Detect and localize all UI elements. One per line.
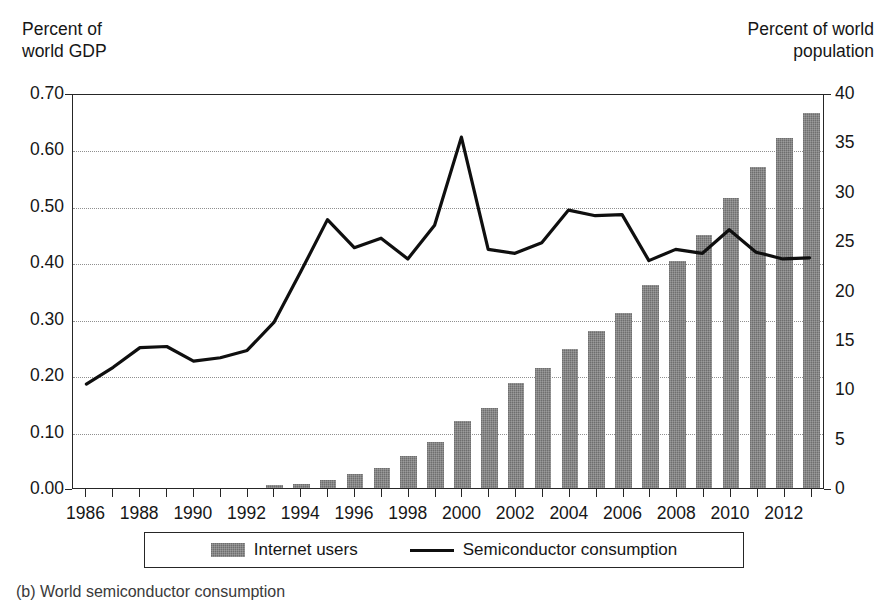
y-axis-left-tick-mark: [65, 489, 72, 490]
x-axis-tick-mark: [408, 489, 409, 497]
x-axis-tick-mark: [542, 489, 543, 497]
legend-entry-semiconductor-consumption[interactable]: Semiconductor consumption: [410, 540, 678, 560]
x-axis-tick-mark: [139, 489, 140, 497]
y-axis-right-tick-label: 10: [835, 379, 887, 400]
x-axis-tick-label: 1998: [378, 503, 438, 524]
y-axis-left-tick-label: 0.40: [0, 252, 64, 273]
y-axis-right-tick-label: 15: [835, 330, 887, 351]
y-axis-left-tick-label: 0.20: [0, 365, 64, 386]
line-svg: [73, 95, 823, 488]
x-axis-tick-label: 1986: [55, 503, 115, 524]
x-axis-tick-label: 2004: [539, 503, 599, 524]
y-axis-right-tick-label: 40: [835, 83, 887, 104]
x-axis-tick-label: 2002: [485, 503, 545, 524]
y-axis-left-tick-label: 0.70: [0, 83, 64, 104]
x-axis-tick-mark: [730, 489, 731, 497]
x-axis-tick-mark: [354, 489, 355, 497]
x-axis-tick-mark: [676, 489, 677, 497]
y-axis-left-tick-label: 0.00: [0, 478, 64, 499]
y-axis-left-tick-mark: [65, 94, 72, 95]
y-axis-left-title: Percent of world GDP: [22, 18, 107, 62]
x-axis-tick-mark: [273, 489, 274, 497]
x-axis-tick-label: 2000: [431, 503, 491, 524]
x-axis-tick-mark: [300, 489, 301, 497]
y-axis-left-tick-label: 0.50: [0, 196, 64, 217]
x-axis-tick-label: 2008: [646, 503, 706, 524]
y-axis-left-tick-label: 0.10: [0, 422, 64, 443]
line-series-semiconductor-consumption: [73, 95, 823, 488]
y-axis-right-tick-label: 20: [835, 281, 887, 302]
y-axis-right-tick-label: 25: [835, 231, 887, 252]
x-axis-tick-mark: [649, 489, 650, 497]
legend-entry-internet-users[interactable]: Internet users: [211, 540, 358, 560]
x-axis-tick-mark: [623, 489, 624, 497]
x-axis-tick-mark: [569, 489, 570, 497]
x-axis-tick-label: 2010: [700, 503, 760, 524]
x-axis-tick-mark: [488, 489, 489, 497]
x-axis-tick-mark: [166, 489, 167, 497]
x-axis-tick-mark: [247, 489, 248, 497]
bar-swatch-icon: [211, 543, 245, 557]
y-axis-right-tick-label: 35: [835, 132, 887, 153]
x-axis-tick-mark: [811, 489, 812, 497]
x-axis-tick-mark: [85, 489, 86, 497]
y-axis-right-tick-label: 0: [835, 478, 887, 499]
figure-caption: (b) World semiconductor consumption: [16, 583, 285, 601]
x-axis-tick-mark: [757, 489, 758, 497]
x-axis-tick-mark: [381, 489, 382, 497]
x-axis-tick-label: 1994: [270, 503, 330, 524]
chart-legend: Internet users Semiconductor consumption: [144, 532, 744, 568]
x-axis-tick-label: 2006: [593, 503, 653, 524]
legend-label-internet-users: Internet users: [254, 540, 358, 560]
plot-area: [72, 94, 824, 489]
x-axis-tick-mark: [220, 489, 221, 497]
y-axis-right-title: Percent of world population: [748, 18, 874, 62]
x-axis-tick-mark: [435, 489, 436, 497]
x-axis-tick-label: 1988: [109, 503, 169, 524]
x-axis-tick-mark: [703, 489, 704, 497]
x-axis-tick-label: 1992: [217, 503, 277, 524]
y-axis-right-tick-label: 30: [835, 182, 887, 203]
y-axis-right-tick-mark: [824, 94, 831, 95]
x-axis-tick-mark: [193, 489, 194, 497]
x-axis-tick-mark: [112, 489, 113, 497]
x-axis-tick-mark: [515, 489, 516, 497]
x-axis-tick-label: 1990: [163, 503, 223, 524]
legend-label-semiconductor-consumption: Semiconductor consumption: [463, 540, 678, 560]
line-swatch-icon: [410, 549, 454, 552]
y-axis-right-tick-mark: [824, 489, 831, 490]
x-axis-tick-mark: [784, 489, 785, 497]
x-axis-tick-mark: [327, 489, 328, 497]
x-axis-tick-mark: [596, 489, 597, 497]
y-axis-left-tick-label: 0.60: [0, 139, 64, 160]
x-axis-tick-label: 1996: [324, 503, 384, 524]
y-axis-left-tick-label: 0.30: [0, 309, 64, 330]
x-axis-tick-label: 2012: [754, 503, 814, 524]
y-axis-right-tick-label: 5: [835, 429, 887, 450]
x-axis-tick-mark: [461, 489, 462, 497]
